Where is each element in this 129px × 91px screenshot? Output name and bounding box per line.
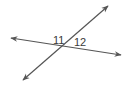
angle-label-11: 11 — [53, 34, 64, 46]
angle-label-12: 12 — [74, 36, 86, 48]
angle-diagram: 11 12 — [0, 0, 129, 91]
line-a — [11, 38, 121, 55]
line-b — [23, 6, 108, 80]
